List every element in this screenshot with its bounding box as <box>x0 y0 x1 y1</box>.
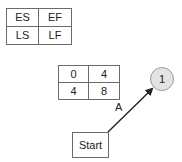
activity-a-lf-cell: 8 <box>89 83 119 100</box>
legend-table: ES EF LS LF <box>6 8 72 45</box>
end-node-label: 1 <box>159 73 165 85</box>
start-node-box: Start <box>72 132 109 158</box>
legend-es-cell: ES <box>7 9 39 27</box>
activity-a-ef-cell: 4 <box>89 66 119 83</box>
legend-lf-cell: LF <box>39 27 71 45</box>
activity-a-es-cell: 0 <box>59 66 89 83</box>
legend-ef-cell: EF <box>39 9 71 27</box>
activity-label: A <box>115 101 122 113</box>
end-node-circle: 1 <box>150 67 174 91</box>
start-node-label: Start <box>79 139 102 151</box>
activity-a-times-table: 0 4 4 8 <box>58 65 120 100</box>
legend-ls-cell: LS <box>7 27 39 45</box>
activity-a-ls-cell: 4 <box>59 83 89 100</box>
